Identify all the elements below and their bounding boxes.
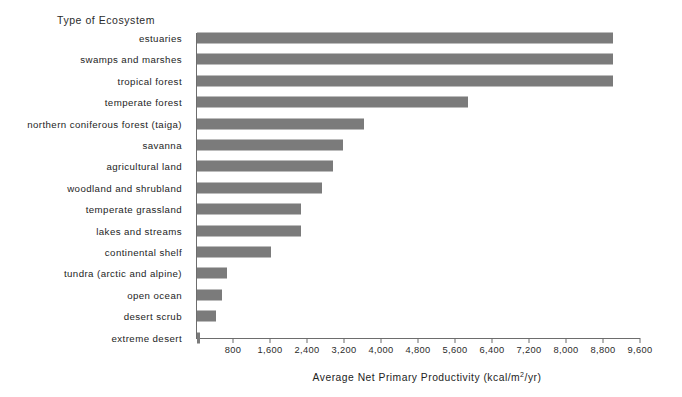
x-tick-label: 8,800 [590,345,615,355]
bar-chart: Type of Ecosystem estuariesswamps and ma… [0,0,682,397]
category-label: estuaries [139,33,182,44]
category-label: continental shelf [105,247,182,258]
x-tick-mark [640,338,641,343]
x-tick-mark [381,338,382,343]
bar [197,140,343,151]
category-label: agricultural land [106,161,182,172]
bar [197,268,227,279]
plot-area: 8001,6002,4003,2004,0004,8005,6006,4007,… [196,33,658,339]
category-axis-heading: Type of Ecosystem [57,14,155,26]
x-axis-title: Average Net Primary Productivity (kcal/m… [196,371,658,383]
x-tick-mark [529,338,530,343]
x-tick-label: 1,600 [257,345,282,355]
x-tick-label: 4,000 [368,345,393,355]
category-label: desert scrub [124,311,182,322]
category-label: open ocean [127,289,182,300]
bar [197,182,322,193]
category-label: lakes and streams [96,225,182,236]
x-tick-mark [233,338,234,343]
x-tick-mark [603,338,604,343]
category-label: tundra (arctic and alpine) [64,268,182,279]
category-label-column: estuariesswamps and marshestropical fore… [0,33,190,333]
category-label: extreme desert [112,332,183,343]
category-label: swamps and marshes [80,54,182,65]
x-tick-mark [566,338,567,343]
bar [197,289,222,300]
bar [197,332,200,343]
bar [197,33,613,44]
bar [197,75,613,86]
category-label: woodland and shrubland [67,182,182,193]
x-tick-mark [455,338,456,343]
x-axis-title-suffix: /yr) [525,372,542,383]
bar [197,161,333,172]
x-tick-label: 3,200 [331,345,356,355]
x-tick-mark [270,338,271,343]
x-tick-label: 4,800 [405,345,430,355]
x-tick-label: 800 [225,345,242,355]
bar [197,204,301,215]
x-axis-title-prefix: Average Net Primary Productivity (kcal/m [313,372,521,383]
x-tick-label: 5,600 [442,345,467,355]
bar [197,54,613,65]
x-tick-mark [492,338,493,343]
category-label: savanna [142,140,182,151]
category-label: temperate grassland [86,204,182,215]
bar [197,118,364,129]
x-tick-mark [344,338,345,343]
x-tick-mark [418,338,419,343]
x-tick-mark [307,338,308,343]
x-tick-label: 9,600 [627,345,652,355]
bar [197,247,271,258]
x-tick-label: 2,400 [294,345,319,355]
bar [197,225,301,236]
category-label: northern coniferous forest (taiga) [27,118,182,129]
category-label: temperate forest [105,97,182,108]
bar [197,311,216,322]
x-tick-label: 6,400 [479,345,504,355]
x-tick-label: 7,200 [516,345,541,355]
x-tick-label: 8,000 [553,345,578,355]
bar [197,97,468,108]
category-label: tropical forest [118,75,182,86]
